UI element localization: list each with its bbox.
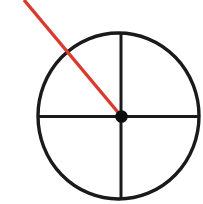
crosshair-circle-figure [0,0,203,204]
center-dot [115,110,128,123]
